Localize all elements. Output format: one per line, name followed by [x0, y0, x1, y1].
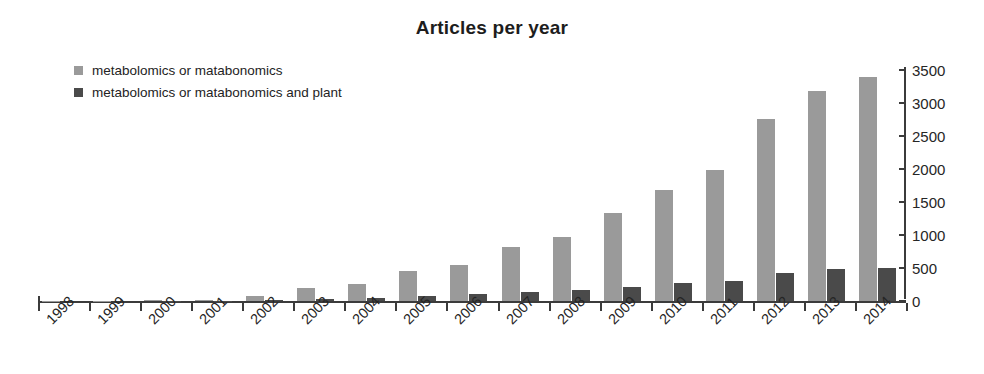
bar-group — [38, 65, 89, 301]
x-axis-tick — [242, 303, 244, 311]
y-axis-tick-label: 3500 — [912, 62, 945, 79]
bar-series-1[interactable] — [399, 271, 417, 301]
x-axis-tick — [498, 303, 500, 311]
x-axis-tick — [753, 303, 755, 311]
x-axis-tick — [855, 303, 857, 311]
x-axis-tick — [446, 303, 448, 311]
bar-series-1[interactable] — [604, 213, 622, 301]
x-axis-tick — [804, 303, 806, 311]
bar-series-container — [38, 65, 906, 301]
bar-group — [804, 65, 855, 301]
bar-group — [293, 65, 344, 301]
x-axis-tick — [600, 303, 602, 311]
bar-series-1[interactable] — [502, 247, 520, 301]
bar-group — [702, 65, 753, 301]
x-axis-tick — [344, 303, 346, 311]
bar-group — [89, 65, 140, 301]
bar-group — [600, 65, 651, 301]
x-axis-tick — [549, 303, 551, 311]
y-axis-tick-label: 2000 — [912, 161, 945, 178]
bar-group — [242, 65, 293, 301]
bar-group — [446, 65, 497, 301]
y-axis-tick-label: 1000 — [912, 227, 945, 244]
plot-area — [38, 62, 906, 303]
x-axis-tick — [191, 303, 193, 311]
bar-series-1[interactable] — [706, 170, 724, 301]
bar-group — [395, 65, 446, 301]
y-axis-tick-label: 500 — [912, 260, 937, 277]
x-axis-tick — [702, 303, 704, 311]
x-axis-tick — [293, 303, 295, 311]
chart-figure: Articles per year metabolomics or matabo… — [0, 0, 984, 374]
x-axis-tick — [651, 303, 653, 311]
bar-group — [140, 65, 191, 301]
bar-series-1[interactable] — [859, 77, 877, 301]
y-axis-tick-label: 0 — [912, 293, 920, 310]
chart-title: Articles per year — [0, 17, 984, 39]
y-axis-tick-label: 1500 — [912, 194, 945, 211]
x-axis-tick — [89, 303, 91, 311]
bar-series-1[interactable] — [450, 265, 468, 301]
bar-group — [344, 65, 395, 301]
bar-group — [498, 65, 549, 301]
bar-series-1[interactable] — [808, 91, 826, 301]
bar-series-1[interactable] — [553, 237, 571, 301]
bar-series-1[interactable] — [655, 190, 673, 301]
x-axis-tick — [38, 303, 40, 311]
bar-group — [549, 65, 600, 301]
x-axis-tick — [140, 303, 142, 311]
y-axis-tick-label: 3000 — [912, 95, 945, 112]
bar-series-1[interactable] — [757, 119, 775, 301]
y-axis-tick-label: 2500 — [912, 128, 945, 145]
bar-group — [753, 65, 804, 301]
x-axis-tick — [395, 303, 397, 311]
bar-series-1[interactable] — [348, 284, 366, 301]
x-axis-tick — [906, 303, 908, 311]
bar-group — [651, 65, 702, 301]
bar-series-1[interactable] — [297, 288, 315, 301]
bar-group — [855, 65, 906, 301]
bar-group — [191, 65, 242, 301]
